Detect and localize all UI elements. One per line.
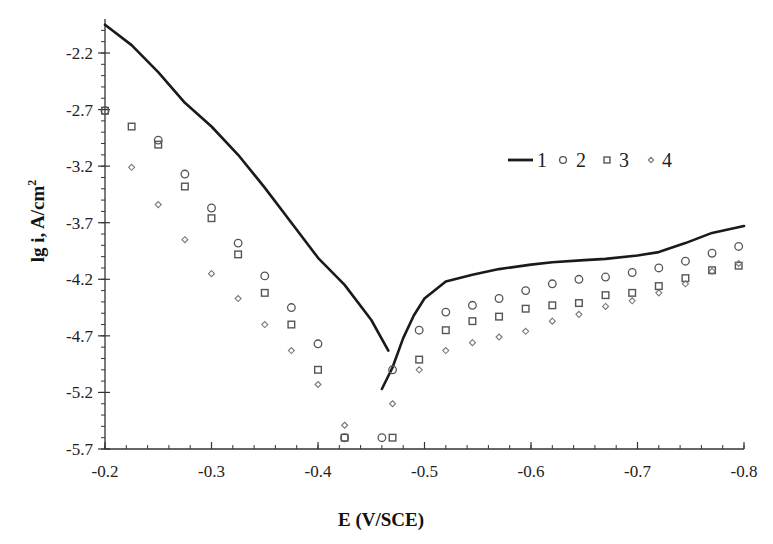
circle-marker — [415, 326, 423, 334]
y-axis-title-superscript: 2 — [25, 180, 39, 186]
y-axis-title-main: lg i, A/cm — [27, 186, 48, 263]
circle-marker — [628, 269, 636, 277]
diamond-marker — [736, 260, 742, 266]
x-tick-label: -0.4 — [305, 462, 332, 481]
y-tick-label: -4.2 — [66, 270, 93, 289]
legend-label-1: 1 — [537, 149, 547, 171]
square-marker — [443, 327, 450, 334]
square-marker — [389, 434, 396, 441]
x-tick-label: -0.8 — [731, 462, 758, 481]
axes: -2.2-2.7-3.2-3.7-4.2-4.7-5.2-5.7-0.2-0.3… — [66, 19, 757, 481]
y-tick-label: -2.2 — [66, 44, 93, 63]
x-tick-label: -0.2 — [92, 462, 119, 481]
y-tick-label: -3.2 — [66, 157, 93, 176]
square-marker — [235, 251, 242, 258]
circle-marker — [735, 243, 743, 251]
circle-marker — [442, 308, 450, 316]
square-marker — [522, 305, 529, 312]
square-marker — [602, 292, 609, 299]
square-marker — [416, 356, 423, 363]
circle-marker — [469, 302, 477, 310]
circle-marker — [682, 257, 690, 265]
y-tick-label: -5.2 — [66, 383, 93, 402]
diamond-marker — [523, 328, 529, 334]
circle-marker — [314, 340, 322, 348]
diamond-marker — [209, 271, 215, 277]
y-tick-label: -4.7 — [66, 327, 93, 346]
circle-marker — [234, 239, 242, 247]
diamond-marker — [603, 303, 609, 309]
polarization-chart: -2.2-2.7-3.2-3.7-4.2-4.7-5.2-5.7-0.2-0.3… — [0, 0, 773, 544]
diamond-marker — [443, 348, 449, 354]
series-1-curve — [382, 226, 744, 389]
y-tick-label: -3.7 — [66, 214, 93, 233]
diamond-marker — [648, 157, 653, 162]
diamond-marker — [469, 340, 475, 346]
legend-label-3: 3 — [619, 149, 629, 171]
diamond-marker — [155, 202, 161, 208]
square-marker — [128, 123, 135, 130]
square-marker — [261, 290, 268, 297]
series-layer — [101, 25, 744, 442]
square-marker — [604, 157, 610, 163]
diamond-marker — [549, 318, 555, 324]
square-marker — [549, 302, 556, 309]
square-marker — [182, 183, 189, 190]
diamond-marker — [629, 298, 635, 304]
x-tick-label: -0.7 — [624, 462, 651, 481]
series-3 — [102, 107, 742, 441]
series-2 — [101, 107, 742, 442]
circle-marker — [208, 204, 216, 212]
series-1-curve — [105, 25, 388, 351]
square-marker — [469, 318, 476, 325]
diamond-marker — [416, 367, 422, 373]
circle-marker — [288, 304, 296, 312]
circle-marker — [522, 287, 530, 295]
legend-label-2: 2 — [576, 149, 586, 171]
diamond-marker — [129, 164, 135, 170]
circle-marker — [378, 434, 386, 442]
square-marker — [315, 367, 322, 374]
square-marker — [288, 321, 295, 328]
diamond-marker — [390, 401, 396, 407]
y-tick-label: -2.7 — [66, 101, 93, 120]
circle-marker — [495, 295, 503, 303]
legend: 1234 — [508, 149, 672, 171]
series-4 — [129, 164, 742, 428]
y-tick-label: -5.7 — [66, 440, 93, 459]
square-marker — [656, 283, 663, 290]
circle-marker — [261, 272, 269, 280]
diamond-marker — [182, 237, 188, 243]
legend-label-4: 4 — [662, 149, 672, 171]
diamond-marker — [496, 334, 502, 340]
chart-canvas: -2.2-2.7-3.2-3.7-4.2-4.7-5.2-5.7-0.2-0.3… — [0, 0, 773, 544]
circle-marker — [655, 264, 663, 272]
y-axis-title: lg i, A/cm2 — [25, 180, 48, 263]
square-marker — [496, 313, 503, 320]
x-tick-label: -0.5 — [411, 462, 438, 481]
circle-marker — [549, 280, 557, 288]
series-1 — [105, 25, 744, 389]
square-marker — [629, 290, 636, 297]
circle-marker — [602, 273, 610, 281]
diamond-marker — [235, 296, 241, 302]
diamond-marker — [288, 348, 294, 354]
circle-marker — [181, 170, 189, 178]
diamond-marker — [576, 311, 582, 317]
circle-marker — [560, 157, 567, 164]
circle-marker — [575, 275, 583, 283]
diamond-marker — [656, 290, 662, 296]
x-axis-title: E (V/SCE) — [338, 509, 424, 531]
diamond-marker — [342, 422, 348, 428]
square-marker — [576, 300, 583, 307]
x-tick-label: -0.6 — [518, 462, 545, 481]
circle-marker — [708, 249, 716, 257]
diamond-marker — [262, 322, 268, 328]
x-tick-label: -0.3 — [198, 462, 225, 481]
diamond-marker — [315, 382, 321, 388]
square-marker — [208, 215, 215, 222]
